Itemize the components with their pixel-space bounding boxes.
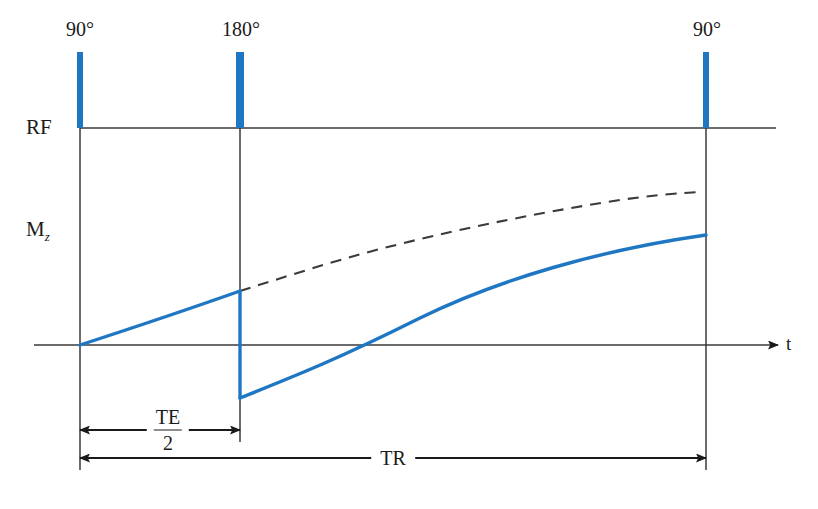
- te-half-denominator: 2: [154, 431, 182, 455]
- figure-canvas: 90° 180° 90° RF Mz t TE 2 TR: [0, 0, 818, 509]
- pulse-label-90-second: 90°: [693, 19, 721, 39]
- pulse-label-90-first: 90°: [66, 19, 94, 39]
- rf-axis-label: RF: [26, 117, 52, 138]
- mz-axis-label-subscript: z: [45, 229, 50, 244]
- mz-curve-segment-2: [240, 235, 706, 398]
- rf-pulse-90-first: [77, 52, 83, 128]
- time-axis-label: t: [786, 334, 791, 353]
- tr-label: TR: [371, 447, 415, 470]
- te-half-label: TE 2: [147, 406, 189, 455]
- mz-axis-label: Mz: [26, 219, 50, 243]
- pulse-sequence-diagram: [0, 0, 818, 509]
- cropped-caption-strip: [0, 501, 818, 509]
- mz-axis-label-base: M: [26, 217, 45, 241]
- rf-pulse-90-second: [703, 52, 709, 128]
- rf-pulse-180: [236, 52, 244, 128]
- mz-curve-segment-1: [80, 291, 240, 345]
- te-half-numerator: TE: [154, 406, 182, 431]
- pulse-label-180: 180°: [222, 19, 260, 39]
- mz-dashed-reference-curve: [240, 192, 700, 291]
